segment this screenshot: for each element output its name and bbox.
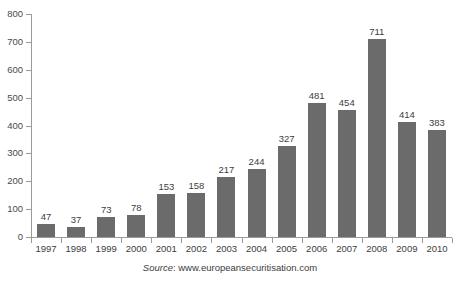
bar-value-label: 711: [359, 27, 395, 37]
y-axis-tick-label: 100: [0, 204, 23, 214]
y-axis-tick-label: 800: [0, 9, 23, 19]
bar-value-label: 244: [239, 157, 275, 167]
y-axis-tick-label: 300: [0, 148, 23, 158]
bar: [127, 215, 145, 237]
bar: [338, 110, 356, 237]
x-axis-tick: [302, 238, 303, 243]
bar-value-label: 327: [269, 134, 305, 144]
x-axis-tick: [242, 238, 243, 243]
bar: [217, 177, 235, 237]
bar-value-label: 158: [178, 181, 214, 191]
bar: [187, 193, 205, 237]
bar-value-label: 383: [419, 118, 455, 128]
x-axis-tick: [121, 238, 122, 243]
bar-value-label: 78: [118, 203, 154, 213]
bar-value-label: 454: [329, 98, 365, 108]
plot-area: [31, 14, 452, 237]
x-axis-tick: [181, 238, 182, 243]
x-axis-tick: [392, 238, 393, 243]
x-axis-tick-label: 2010: [419, 244, 455, 254]
bar: [97, 217, 115, 237]
bar: [398, 122, 416, 237]
y-axis-tick-label: 200: [0, 176, 23, 186]
bar-chart: 0100200300400500600700800 19971998199920…: [0, 0, 460, 283]
y-axis-tick-label: 0: [0, 232, 23, 242]
x-axis-tick: [151, 238, 152, 243]
source-label: Source: [143, 262, 173, 273]
bar: [428, 130, 446, 237]
x-axis-tick: [332, 238, 333, 243]
bar: [248, 169, 266, 237]
bar-value-label: 37: [58, 215, 94, 225]
source-note: Source: www.europeansecuritisation.com: [0, 262, 460, 273]
bar: [67, 227, 85, 237]
x-axis-tick: [422, 238, 423, 243]
y-axis-tick-label: 700: [0, 37, 23, 47]
x-axis-tick: [272, 238, 273, 243]
bar: [278, 146, 296, 237]
y-axis-tick-label: 500: [0, 93, 23, 103]
x-axis-tick: [362, 238, 363, 243]
y-axis-tick-label: 400: [0, 121, 23, 131]
bar: [37, 224, 55, 237]
x-axis-tick: [31, 238, 32, 243]
x-axis-tick: [211, 238, 212, 243]
bar: [368, 39, 386, 237]
source-url: www.europeansecuritisation.com: [178, 262, 317, 273]
bar: [157, 194, 175, 237]
x-axis-tick: [452, 238, 453, 243]
x-axis-tick: [61, 238, 62, 243]
bar: [308, 103, 326, 237]
y-axis-tick-label: 600: [0, 65, 23, 75]
x-axis-tick: [91, 238, 92, 243]
